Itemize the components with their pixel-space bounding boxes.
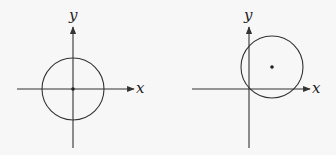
center-point	[71, 87, 75, 91]
y-axis-label: y	[243, 6, 253, 24]
x-axis-label: x	[312, 79, 321, 97]
y-axis-label: y	[68, 6, 78, 24]
x-axis-label: x	[136, 79, 145, 97]
right-diagram: x y	[192, 6, 321, 148]
diagram-canvas: x y x y	[0, 0, 336, 155]
left-diagram: x y	[17, 6, 145, 148]
center-point	[270, 65, 274, 69]
